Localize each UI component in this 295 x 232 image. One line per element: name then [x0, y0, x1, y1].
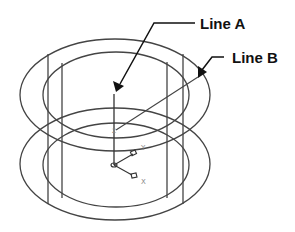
y-axis-label: Y — [141, 145, 145, 152]
line-b-leader — [198, 57, 224, 78]
line-b-label: Line B — [232, 50, 278, 65]
x-axis-marker-icon — [131, 173, 137, 178]
x-axis-label: X — [141, 179, 146, 186]
line-b-arrowhead-icon — [198, 66, 207, 78]
ucs-icon — [111, 150, 137, 178]
line-a-label: Line A — [200, 16, 245, 31]
line-b — [116, 77, 198, 130]
z-axis-label: Z — [112, 128, 116, 134]
line-a-arrowhead-icon — [113, 81, 124, 92]
cylinder-wireframe-diagram — [0, 0, 295, 232]
